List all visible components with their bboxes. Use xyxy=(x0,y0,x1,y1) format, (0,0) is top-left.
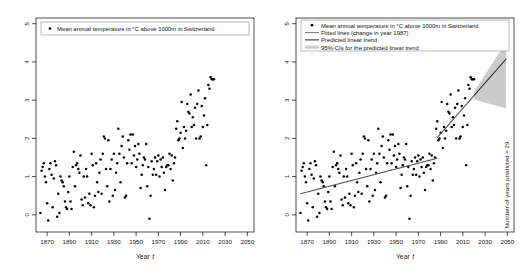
data-point xyxy=(120,145,123,148)
data-point xyxy=(96,181,99,184)
y-tick-label: 3 xyxy=(23,98,30,102)
data-point xyxy=(429,168,432,171)
legend-band-swatch-icon xyxy=(305,46,319,49)
data-point xyxy=(456,103,459,106)
data-point xyxy=(188,112,191,115)
data-point xyxy=(69,200,72,203)
data-point xyxy=(406,185,409,188)
data-point xyxy=(327,191,330,194)
data-point xyxy=(142,164,145,167)
data-point xyxy=(367,139,370,142)
data-point xyxy=(154,156,157,159)
data-point xyxy=(90,152,93,155)
data-point xyxy=(351,164,354,167)
figure-container: 1870189019101930195019701990201020302050… xyxy=(0,0,520,278)
data-point xyxy=(336,162,339,165)
data-point xyxy=(180,101,183,104)
data-point xyxy=(347,202,350,205)
x-tick-label: 2050 xyxy=(500,238,514,245)
data-point xyxy=(169,168,172,171)
data-point xyxy=(436,120,439,123)
data-point xyxy=(306,202,309,205)
data-point xyxy=(104,137,107,140)
data-point xyxy=(462,126,465,129)
data-point xyxy=(91,164,94,167)
data-point xyxy=(84,196,87,199)
data-point xyxy=(140,173,143,176)
data-point xyxy=(409,194,412,197)
data-point xyxy=(446,103,449,106)
data-point xyxy=(454,107,457,110)
data-point xyxy=(51,206,54,209)
data-point xyxy=(422,156,425,159)
data-point xyxy=(93,206,96,209)
left-x-axis-title: Yeart xyxy=(136,253,155,260)
data-point xyxy=(178,137,181,140)
data-point xyxy=(444,137,447,140)
x-tick-label: 2010 xyxy=(196,238,210,245)
x-tick-label: 1910 xyxy=(345,238,359,245)
data-point xyxy=(310,173,313,176)
right-x-axis-title: Yeart xyxy=(396,253,415,260)
data-point xyxy=(355,162,358,165)
data-point xyxy=(300,170,303,173)
data-point xyxy=(330,208,333,211)
x-tick-label: 1930 xyxy=(367,238,381,245)
y-tick-label: 5 xyxy=(23,21,30,25)
data-point xyxy=(179,131,182,134)
data-point xyxy=(374,189,377,192)
data-point xyxy=(206,124,209,127)
data-point xyxy=(418,175,421,178)
data-point xyxy=(152,173,155,176)
data-point xyxy=(315,164,318,167)
data-point xyxy=(435,128,438,131)
data-point xyxy=(61,181,64,184)
data-point xyxy=(145,143,148,146)
data-point xyxy=(399,187,402,190)
data-point xyxy=(350,152,353,155)
data-point xyxy=(309,162,312,165)
y-tick-label: 3 xyxy=(283,98,290,102)
data-point xyxy=(44,175,47,178)
data-point xyxy=(182,147,185,150)
data-point xyxy=(106,185,109,188)
y-tick-label: 4 xyxy=(283,60,290,64)
data-point xyxy=(71,166,74,169)
legend-label-observations: Mean annual temperature in °C above 1000… xyxy=(321,23,479,29)
data-point xyxy=(356,181,359,184)
data-point xyxy=(318,212,321,215)
data-point xyxy=(348,193,351,196)
data-point xyxy=(405,143,408,146)
data-point xyxy=(207,84,210,87)
data-point xyxy=(168,152,171,155)
data-point xyxy=(126,162,129,165)
data-point xyxy=(162,156,165,159)
legend-label-confidence-band: 95%-CIs for the predicted linear trend xyxy=(321,45,419,51)
data-point xyxy=(361,152,364,155)
data-point xyxy=(159,158,162,161)
left-plot-frame xyxy=(36,18,254,232)
data-point xyxy=(133,154,136,157)
y-tick-label: 2 xyxy=(283,136,290,140)
data-point xyxy=(186,103,189,106)
data-point xyxy=(354,194,357,197)
data-point xyxy=(56,215,59,218)
y-tick-label: 0 xyxy=(23,213,30,217)
data-point xyxy=(379,181,382,184)
data-point xyxy=(326,208,329,211)
right-x-axis-ticks: 1870189019101930195019701990201020302050 xyxy=(300,232,515,245)
data-point xyxy=(81,204,84,207)
data-point xyxy=(338,172,341,175)
data-point xyxy=(109,168,112,171)
data-point xyxy=(440,101,443,104)
data-point xyxy=(466,124,469,127)
legend-label-fitted-lines: Fitted lines (change in year 1987) xyxy=(321,30,408,36)
data-point xyxy=(328,175,331,178)
data-point xyxy=(153,168,156,171)
data-point xyxy=(416,160,419,163)
data-point xyxy=(464,97,467,100)
data-point xyxy=(368,200,371,203)
data-point xyxy=(190,126,193,129)
data-point xyxy=(473,78,476,81)
data-point xyxy=(357,191,360,194)
